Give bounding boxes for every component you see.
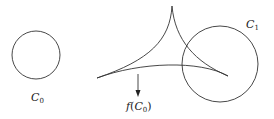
label-f-c0-main: C — [134, 100, 142, 113]
circle-c1 — [182, 26, 258, 102]
arrow-down-icon — [136, 74, 141, 97]
label-f-c0: f(C0) — [126, 101, 152, 114]
label-c0: C0 — [31, 92, 44, 105]
image-curve-f-c0 — [97, 6, 228, 78]
label-c1: C1 — [246, 19, 259, 32]
label-close-paren: ) — [147, 100, 151, 113]
label-c1-sub: 1 — [254, 24, 258, 32]
circle-c0 — [12, 31, 60, 79]
label-c0-sub: 0 — [39, 97, 43, 105]
diagram-canvas: C0 C1 f(C0) — [0, 0, 274, 119]
